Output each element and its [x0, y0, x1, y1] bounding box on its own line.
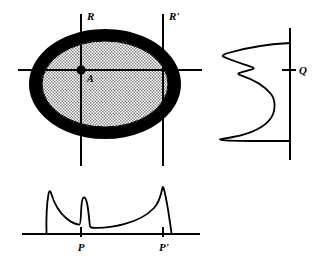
q-axis-label: Q	[299, 64, 307, 76]
figure-root: R R' A Q P P'	[0, 0, 320, 260]
p-tick-label: P	[78, 241, 85, 253]
ray-r-prime-label: R'	[168, 10, 179, 22]
point-a-label: A	[86, 73, 94, 84]
interior-stipple	[42, 41, 168, 127]
p-prime-tick-label: P'	[159, 241, 169, 253]
projection-diagram-svg: R R' A Q P P'	[0, 0, 320, 260]
ray-r-label: R	[86, 10, 94, 22]
point-a-marker	[76, 65, 85, 74]
canvas-background	[0, 0, 320, 260]
